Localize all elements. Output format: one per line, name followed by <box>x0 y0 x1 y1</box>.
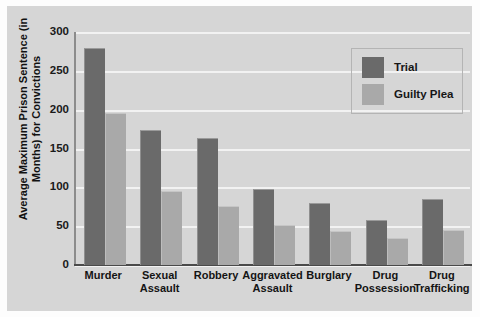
bar-trial <box>197 138 218 265</box>
y-tick-label: 100 <box>50 181 69 192</box>
chart-legend: Trial Guilty Plea <box>351 48 463 114</box>
bar-trial <box>84 48 105 265</box>
legend-label-trial: Trial <box>394 61 418 73</box>
bar-trial <box>253 189 274 265</box>
y-tick-label: 200 <box>50 104 69 115</box>
y-axis-label: Average Maximum Prison Sentence (in Mont… <box>17 4 43 234</box>
y-tick-label: 150 <box>50 143 69 154</box>
legend-swatch-trial <box>362 57 384 78</box>
bar-trial <box>366 220 387 265</box>
bar-guilty-plea <box>330 231 351 265</box>
bar-guilty-plea <box>105 113 126 265</box>
bar-guilty-plea <box>387 238 408 265</box>
bar-guilty-plea <box>161 191 182 265</box>
x-tick-label: Drug Trafficking <box>408 269 476 294</box>
y-tick-label: 300 <box>50 26 69 37</box>
y-tick-label: 250 <box>50 65 69 76</box>
legend-swatch-guilty-plea <box>362 84 384 105</box>
legend-label-guilty-plea: Guilty Plea <box>394 88 453 100</box>
bar-guilty-plea <box>218 206 239 265</box>
bar-trial <box>422 199 443 265</box>
bar-trial <box>309 203 330 265</box>
bar-guilty-plea <box>443 230 464 265</box>
chart-figure: Average Maximum Prison Sentence (in Mont… <box>0 0 480 317</box>
y-tick-label: 50 <box>56 220 69 231</box>
chart-canvas: Average Maximum Prison Sentence (in Mont… <box>7 6 472 311</box>
bar-trial <box>140 130 161 265</box>
y-axis-ticks: 050100150200250300 <box>41 32 69 272</box>
bar-guilty-plea <box>274 225 295 265</box>
